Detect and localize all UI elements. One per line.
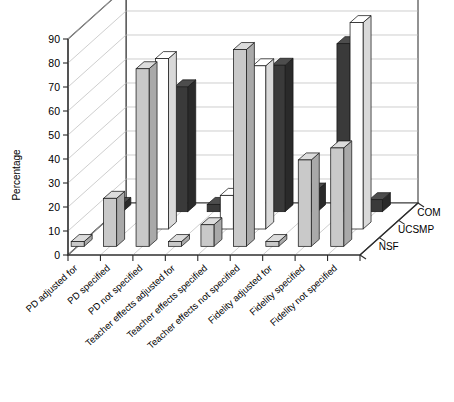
- bar-nsf-cat2: [136, 62, 157, 247]
- bar-ucsmp-cat8: [350, 16, 371, 229]
- x-axis-tick-label: Fidelity specified: [247, 262, 307, 317]
- chart-canvas: 0102030405060708090PercentagePD adjusted…: [0, 0, 454, 402]
- y-axis-tick-label: 20: [48, 201, 60, 213]
- y-axis-tick-label: 0: [54, 249, 60, 261]
- bar-nsf-cat5: [233, 43, 254, 247]
- bar-ucsmp-cat2: [155, 52, 176, 229]
- bar-com-cat2: [175, 80, 196, 212]
- y-axis-tick-label: 80: [48, 57, 60, 69]
- bar-nsf-cat7: [298, 153, 319, 246]
- bar-nsf-cat1: [104, 191, 125, 246]
- y-axis-title: Percentage: [11, 149, 22, 201]
- z-axis-tick-label-com: COM: [417, 207, 440, 218]
- y-axis-tick-label: 60: [48, 105, 60, 117]
- y-axis-tick-label: 10: [48, 225, 60, 237]
- y-axis-tick-label: 40: [48, 153, 60, 165]
- y-axis-tick-label: 50: [48, 129, 60, 141]
- y-axis-tick-label: 30: [48, 177, 60, 189]
- z-axis-tick: [360, 255, 366, 259]
- bar-chart-3d: 0102030405060708090PercentagePD adjusted…: [0, 0, 454, 402]
- z-axis-tick-label-nsf: NSF: [379, 241, 399, 252]
- z-axis-tick-label-ucsmp: UCSMP: [398, 224, 434, 235]
- x-axis-tick-label: PD adjusted for: [24, 262, 80, 314]
- bar-nsf-cat8: [331, 141, 352, 246]
- y-axis-tick-label: 90: [48, 33, 60, 45]
- y-axis-tick-label: 70: [48, 81, 60, 93]
- bar-com-cat5: [272, 58, 293, 211]
- bar-nsf-cat4: [201, 218, 222, 247]
- bar-ucsmp-cat5: [253, 59, 274, 229]
